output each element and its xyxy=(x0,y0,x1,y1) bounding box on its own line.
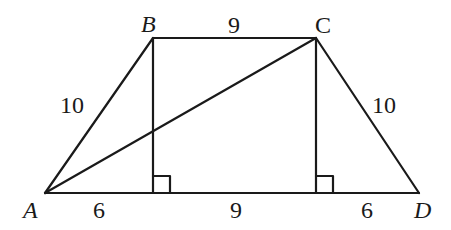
vertex-label-d: D xyxy=(414,198,431,222)
length-label-bc: 9 xyxy=(228,13,240,37)
trapezoid-diagram: B 9 C 10 10 A 6 9 6 D xyxy=(0,0,451,230)
length-label-base-mid: 9 xyxy=(230,198,242,222)
diagonal-ac xyxy=(45,38,316,193)
vertex-label-b: B xyxy=(141,12,156,36)
right-angle-mark-b xyxy=(153,176,170,193)
length-label-ab: 10 xyxy=(60,93,84,117)
right-angle-mark-c xyxy=(316,176,333,193)
length-label-base-right: 6 xyxy=(361,198,373,222)
vertex-label-c: C xyxy=(315,13,331,37)
length-label-cd: 10 xyxy=(372,93,396,117)
length-label-base-left: 6 xyxy=(93,198,105,222)
vertex-label-a: A xyxy=(23,198,38,222)
side-cd xyxy=(316,38,419,193)
